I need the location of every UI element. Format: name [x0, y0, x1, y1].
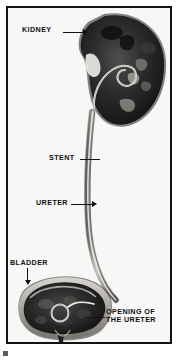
label-opening-of-the-ureter: OPENING OFTHE URETER: [106, 308, 156, 324]
arrow-head-ureter: [92, 201, 97, 207]
label-kidney: KIDNEY: [22, 26, 52, 34]
arrow-head-kidney: [83, 29, 88, 35]
bladder-organ: [18, 276, 112, 342]
label-bladder: BLADDER: [10, 259, 48, 267]
leader-line-opening: [84, 317, 105, 318]
image-frame: [6, 6, 172, 344]
image-plate: [8, 8, 170, 342]
illustration-figure: KIDNEY STENT URETER BLADDER OPENING OFTH…: [0, 0, 181, 363]
label-ureter: URETER: [36, 199, 68, 207]
leader-line-ureter: [71, 204, 93, 205]
anatomy-artwork: [8, 8, 170, 342]
label-opening-line2: THE URETER: [106, 315, 156, 324]
arrow-head-bladder: [25, 280, 31, 285]
leader-line-stent: [80, 159, 100, 160]
scan-artifact: [3, 351, 8, 356]
label-stent: STENT: [49, 154, 75, 162]
leader-line-kidney: [63, 32, 84, 33]
